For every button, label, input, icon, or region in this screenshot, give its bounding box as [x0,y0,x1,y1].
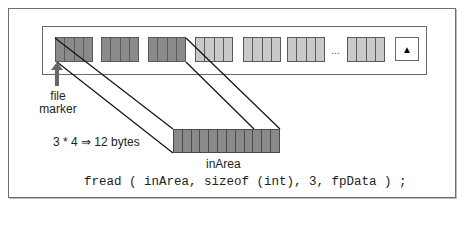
buffer-cell [174,130,183,152]
buffer-cell [236,130,245,152]
buffer-cell [253,130,262,152]
buffer-cell [209,130,218,152]
file-marker-label: file marker [38,90,78,116]
projection-line [186,62,254,129]
buffer-cell [271,130,279,152]
buffer-cell [245,130,254,152]
buffer-cell [200,130,209,152]
buffer-cell [227,130,236,152]
file-marker-label-line2: marker [38,103,78,116]
buffer-cell [218,130,227,152]
buffer-cell [262,130,271,152]
buffer-cell [183,130,192,152]
inarea-buffer [173,129,280,153]
projection-line [186,38,280,129]
bytes-label: 3 * 4 ⇒ 12 bytes [53,135,140,149]
fread-code: fread ( inArea, sizeof (int), 3, fpData … [84,175,407,189]
inarea-label: inArea [206,157,241,171]
buffer-cell [192,130,201,152]
